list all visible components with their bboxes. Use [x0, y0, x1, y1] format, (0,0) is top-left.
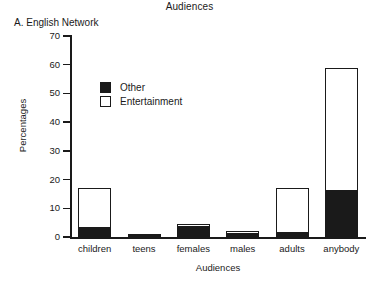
y-axis-tick-label: 60 — [20, 60, 60, 70]
bar-group-teens[interactable] — [128, 36, 161, 237]
y-axis-tick-label: 50 — [20, 88, 60, 98]
panel-label: A. English Network — [14, 17, 98, 28]
legend-item-other[interactable]: Other — [100, 80, 182, 94]
y-axis-tick-label: 20 — [20, 175, 60, 185]
legend-label: Other — [120, 82, 145, 93]
chart-title: Audiences — [0, 1, 379, 12]
chart-figure: Audiences A. English Network Percentages… — [0, 0, 379, 281]
bar-group-anybody[interactable] — [325, 36, 358, 237]
y-axis-tick — [63, 236, 70, 237]
bar-segment-other[interactable] — [325, 191, 358, 237]
chart-legend: OtherEntertainment — [100, 80, 182, 108]
legend-item-entertainment[interactable]: Entertainment — [100, 94, 182, 108]
plot-area — [70, 36, 366, 237]
x-axis-tick-label: anybody — [301, 243, 379, 254]
bar-group-adults[interactable] — [276, 36, 309, 237]
y-axis-tick — [63, 93, 70, 94]
bar-segment-entertainment[interactable] — [78, 188, 111, 228]
x-axis-line — [70, 237, 366, 239]
bar-group-females[interactable] — [177, 36, 210, 237]
bar-segment-entertainment[interactable] — [276, 188, 309, 233]
bar-group-children[interactable] — [78, 36, 111, 237]
y-axis-tick — [63, 208, 70, 209]
y-axis-tick-label: 10 — [20, 203, 60, 213]
x-axis-title: Audiences — [70, 262, 366, 273]
legend-label: Entertainment — [120, 96, 182, 107]
bar-segment-other[interactable] — [177, 227, 210, 237]
bar-segment-other[interactable] — [276, 233, 309, 237]
y-axis-tick — [63, 179, 70, 180]
bar-segment-other[interactable] — [78, 228, 111, 237]
y-axis-tick — [63, 35, 70, 36]
bar-segment-other[interactable] — [226, 234, 259, 237]
y-axis-tick-label: 70 — [20, 31, 60, 41]
y-axis-tick-label: 0 — [20, 232, 60, 242]
bar-segment-entertainment[interactable] — [325, 68, 358, 191]
y-axis-tick-label: 30 — [20, 146, 60, 156]
bar-group-males[interactable] — [226, 36, 259, 237]
y-axis-tick — [63, 64, 70, 65]
y-axis-tick-label: 40 — [20, 117, 60, 127]
bar-segment-other[interactable] — [128, 234, 161, 237]
legend-swatch-icon — [100, 96, 111, 107]
y-axis-tick — [63, 121, 70, 122]
legend-swatch-icon — [100, 82, 111, 93]
y-axis-tick — [63, 150, 70, 151]
